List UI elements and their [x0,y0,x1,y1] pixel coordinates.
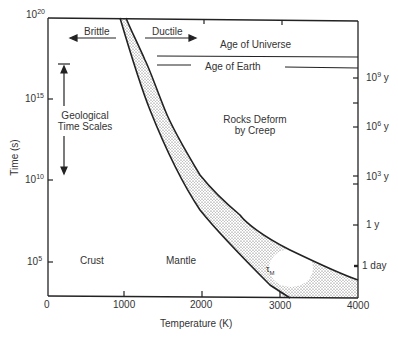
tau-subscript: M [270,270,275,276]
geological-line-1: Geological [52,110,118,121]
y-tick-1e5: 105 [27,256,42,267]
crust-label: Crust [80,255,104,266]
rocks-line-2: by Creep [220,125,290,136]
rocks-deform-label: Rocks Deform by Creep [220,114,290,136]
mantle-label: Mantle [166,255,196,266]
y-axis-title: Time (s) [9,139,20,175]
x-axis-title: Temperature (K) [160,318,232,329]
age-of-universe-label: Age of Universe [220,39,291,50]
tau-m-region [269,249,313,287]
right-tick-1day: 1 day [362,260,386,271]
x-tick-3000: 3000 [269,300,291,311]
ductile-label: Ductile [152,26,183,37]
age-of-universe-line [157,56,358,57]
age-of-earth-label: Age of Earth [205,61,261,72]
age-of-earth-line-right [285,67,358,68]
y-ticks-right [353,78,358,266]
right-tick-1e6y: 106 y [366,121,389,132]
brittle-label: Brittle [84,26,110,37]
x-tick-0: 0 [44,299,50,310]
chart-canvas [0,0,398,337]
right-tick-1e3y: 103 y [366,171,389,182]
x-tick-1000: 1000 [113,299,135,310]
tau-m-label: τM [266,264,275,279]
right-tick-1e9y: 109 y [366,72,389,83]
x-tick-2000: 2000 [190,299,212,310]
right-tick-1y: 1 y [366,219,379,230]
geological-time-scales-label: Geological Time Scales [52,110,118,132]
transition-band [120,18,358,298]
y-tick-1e20: 1020 [26,9,45,20]
y-tick-1e15: 1015 [25,93,44,104]
geological-line-2: Time Scales [52,121,118,132]
rocks-line-1: Rocks Deform [220,114,290,125]
x-tick-4000: 4000 [347,300,369,311]
y-tick-1e10: 1010 [25,174,44,185]
